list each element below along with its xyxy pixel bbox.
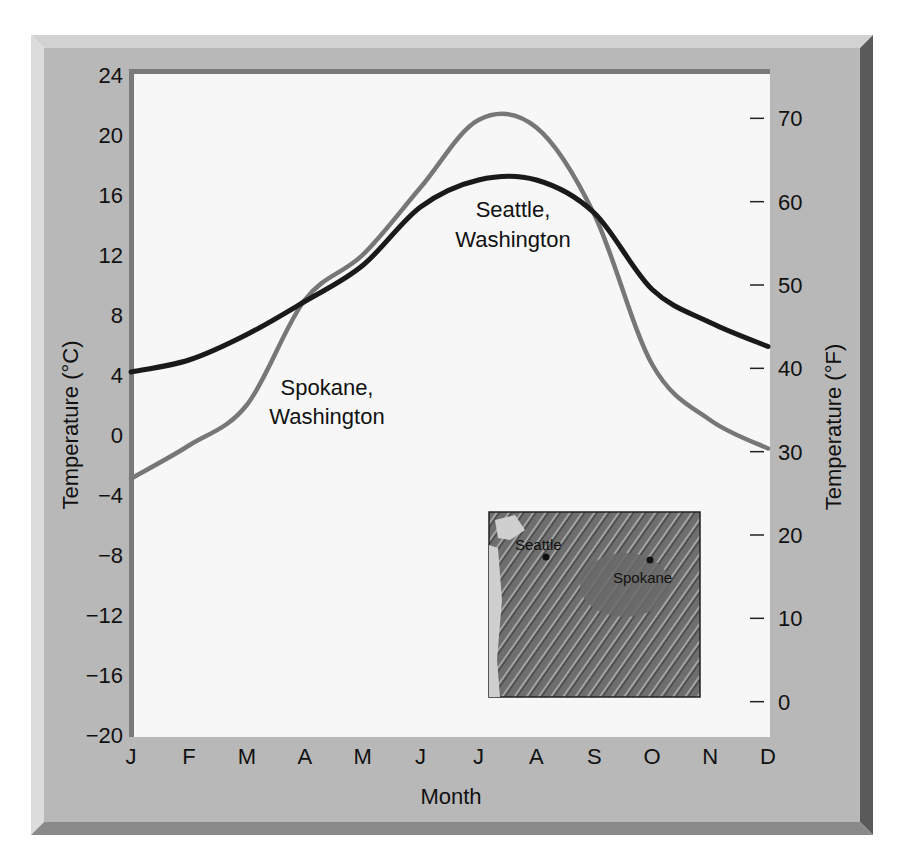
y-tick-label: 20 [99, 123, 123, 148]
y-right-tick-label: 20 [778, 523, 802, 548]
seattle-label-2: Washington [455, 227, 570, 252]
x-tick-label: S [587, 744, 602, 769]
chart-figure: Seattle Spokane Seattle, Washington Spok… [0, 0, 899, 860]
map-label-spokane: Spokane [613, 569, 672, 586]
x-tick-label: J [126, 744, 137, 769]
frame-bevel-right [860, 35, 873, 835]
map-label-seattle: Seattle [515, 536, 562, 553]
y-tick-label: 0 [111, 423, 123, 448]
inset-map: Seattle Spokane [489, 512, 700, 697]
x-tick-label: J [415, 744, 426, 769]
seattle-dot [543, 554, 550, 561]
x-tick-label: J [473, 744, 484, 769]
y-tick-label: 8 [111, 303, 123, 328]
y-axis-title-right: Temperature (°F) [821, 344, 846, 511]
y-right-tick-label: 50 [778, 273, 802, 298]
plot-border-top [131, 69, 770, 74]
y-right-tick-label: 30 [778, 440, 802, 465]
frame-bevel-bottom [31, 822, 873, 835]
y-axis-title-left: Temperature (°C) [58, 341, 83, 510]
spokane-label-line2: Washington [269, 404, 384, 429]
seattle-label-line1: Seattle, [476, 197, 551, 222]
x-tick-label: A [529, 744, 544, 769]
x-tick-label: M [238, 744, 256, 769]
seattle-label: Seattle, [476, 197, 551, 222]
y-tick-label: 16 [99, 183, 123, 208]
y-tick-label: −12 [86, 603, 123, 628]
y-right-tick-label: 10 [778, 606, 802, 631]
y-right-tick-label: 0 [778, 690, 790, 715]
frame-bevel-left [31, 35, 44, 835]
y-tick-label: −4 [98, 483, 123, 508]
spokane-dot [647, 557, 654, 564]
x-tick-label: D [760, 744, 776, 769]
x-tick-label: O [644, 744, 661, 769]
x-tick-label: M [353, 744, 371, 769]
y-tick-label: 12 [99, 243, 123, 268]
y-tick-label: −8 [98, 543, 123, 568]
y-tick-label: −16 [86, 663, 123, 688]
x-tick-label: F [182, 744, 195, 769]
y-right-tick-label: 70 [778, 106, 802, 131]
spokane-label-2: Washington [269, 404, 384, 429]
spokane-label-line1: Spokane, [281, 375, 374, 400]
y-right-tick-label: 40 [778, 356, 802, 381]
x-tick-label: N [702, 744, 718, 769]
y-tick-label: 24 [99, 63, 123, 88]
plot-border-left [129, 69, 134, 737]
y-tick-label: −20 [86, 723, 123, 748]
spokane-label: Spokane, [281, 375, 374, 400]
seattle-label-line2: Washington [455, 227, 570, 252]
y-tick-label: 4 [111, 363, 123, 388]
x-tick-label: A [297, 744, 312, 769]
x-axis-title: Month [420, 784, 481, 809]
frame-bevel-top [31, 35, 873, 48]
y-right-tick-label: 60 [778, 190, 802, 215]
